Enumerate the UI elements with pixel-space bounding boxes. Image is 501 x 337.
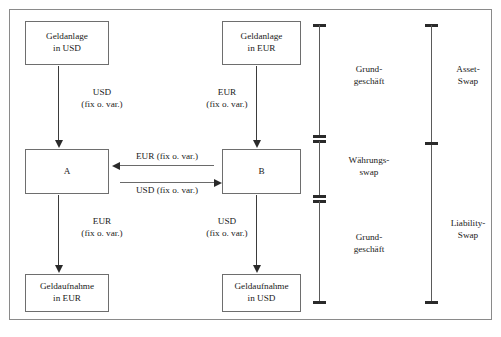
- bracket-label-grundgeschaeft-bottom-line2: geschäft: [354, 244, 385, 254]
- bracket-label-grundgeschaeft-bottom-line1: Grund-: [356, 232, 383, 242]
- label-flow-eur-bottom-currency: EUR: [93, 216, 111, 226]
- arrow-swap-eur-b-to-a: [120, 165, 214, 166]
- bracket-outer-2-bottom-cap: [425, 301, 438, 304]
- bracket-label-waehrungsswap: Währungs-swap: [333, 155, 405, 179]
- bracket-label-waehrungsswap-line2: swap: [360, 167, 379, 177]
- bracket-inner-2-bottom-cap: [313, 195, 326, 198]
- bracket-inner-3-line: [319, 201, 320, 302]
- box-geldanlage-eur-line1: Geldanlage: [241, 31, 283, 41]
- figure-caption: [9, 325, 492, 336]
- bracket-label-grundgeschaeft-top: Grund-geschäft: [333, 64, 405, 88]
- bracket-label-liability-swap-line1: Liability-: [451, 218, 486, 228]
- box-geldaufnahme-eur-line1: Geldaufnahme: [40, 281, 94, 291]
- box-geldanlage-eur: Geldanlagein EUR: [222, 21, 301, 65]
- label-flow-eur-bottom: EUR(fix o. var.): [67, 216, 137, 240]
- bracket-inner-1-bottom-cap: [313, 135, 326, 138]
- box-party-b-label: B: [256, 166, 266, 178]
- bracket-label-grundgeschaeft-bottom: Grund-geschäft: [333, 232, 405, 256]
- label-flow-eur-bottom-terms: (fix o. var.): [81, 228, 122, 238]
- label-flow-eur-top: EUR(fix o. var.): [192, 87, 262, 111]
- box-geldaufnahme-usd-line2: in USD: [248, 293, 276, 303]
- bracket-inner-3-bottom-cap: [313, 301, 326, 304]
- label-flow-eur-top-terms: (fix o. var.): [206, 99, 247, 109]
- box-party-a: A: [25, 149, 109, 194]
- box-geldaufnahme-eur: Geldaufnahmein EUR: [25, 274, 109, 312]
- bracket-outer-2-line: [431, 145, 432, 302]
- box-party-b: B: [222, 149, 301, 194]
- label-swap-usd: USD (fix o. var.): [120, 185, 214, 197]
- label-flow-usd-bottom-currency: USD: [218, 216, 236, 226]
- box-geldaufnahme-usd-line1: Geldaufnahme: [234, 281, 288, 291]
- bracket-inner-1-line: [319, 25, 320, 136]
- label-flow-usd-bottom: USD(fix o. var.): [192, 216, 262, 240]
- label-swap-eur: EUR (fix o. var.): [120, 151, 214, 163]
- figure-canvas: Geldanlagein USD Geldanlagein EUR A B Ge…: [0, 0, 501, 337]
- box-party-a-label: A: [62, 166, 73, 178]
- diagram-frame: Geldanlagein USD Geldanlagein EUR A B Ge…: [9, 9, 492, 320]
- box-geldanlage-eur-line2: in EUR: [248, 43, 276, 53]
- bracket-label-grundgeschaeft-top-line1: Grund-: [356, 64, 383, 74]
- box-geldaufnahme-usd: Geldaufnahmein USD: [222, 274, 301, 312]
- box-geldanlage-usd-line1: Geldanlage: [46, 31, 88, 41]
- label-flow-usd-bottom-terms: (fix o. var.): [206, 228, 247, 238]
- arrow-a-to-geldaufnahme-eur: [58, 195, 59, 266]
- bracket-label-grundgeschaeft-top-line2: geschäft: [354, 76, 385, 86]
- arrow-geldanlage-usd-to-a: [58, 66, 59, 141]
- label-flow-eur-top-currency: EUR: [218, 87, 236, 97]
- box-geldanlage-usd: Geldanlagein USD: [25, 21, 109, 65]
- label-flow-usd-top-currency: USD: [93, 87, 111, 97]
- box-geldaufnahme-eur-line2: in EUR: [53, 293, 81, 303]
- box-geldanlage-usd-line2: in USD: [53, 43, 81, 53]
- arrow-swap-usd-a-to-b: [120, 182, 214, 183]
- bracket-label-asset-swap: Asset-Swap: [444, 64, 492, 88]
- bracket-label-waehrungsswap-line1: Währungs-: [349, 155, 390, 165]
- label-flow-usd-top: USD(fix o. var.): [67, 87, 137, 111]
- bracket-inner-2-line: [319, 141, 320, 196]
- label-flow-usd-top-terms: (fix o. var.): [81, 99, 122, 109]
- bracket-label-liability-swap-line2: Swap: [458, 230, 478, 240]
- bracket-outer-1-line: [431, 25, 432, 143]
- bracket-label-liability-swap: Liability-Swap: [442, 218, 494, 242]
- bracket-label-asset-swap-line1: Asset-: [456, 64, 479, 74]
- bracket-label-asset-swap-line2: Swap: [458, 76, 478, 86]
